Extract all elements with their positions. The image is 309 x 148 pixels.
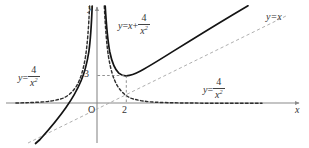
plot-canvas [0, 0, 309, 148]
asymptote-line-y-equals-x [28, 15, 288, 143]
x-axis-label: x [295, 105, 299, 115]
right-hyperbola-exponent: 2 [220, 88, 223, 95]
left-hyperbola-exponent: 2 [35, 76, 38, 83]
main-curve-fraction: 4 x2 [138, 13, 150, 36]
annotation-asymptote: y=x [266, 12, 282, 22]
right-hyperbola-denominator: x2 [213, 89, 225, 101]
axis-group [6, 7, 299, 143]
annotation-main-curve: y = x + 4 x2 [118, 14, 150, 37]
graph-figure: y = x + 4 x2 y = 4 x2 y = 4 x2 [0, 0, 309, 148]
annotation-left-hyperbola: y = 4 x2 [18, 66, 40, 89]
x-tick-label-2: 2 [122, 105, 127, 115]
origin-label: O [88, 105, 95, 115]
left-hyperbola-denominator: x2 [28, 77, 40, 89]
y-tick-label-3: 3 [84, 69, 89, 79]
annotation-right-hyperbola: y = 4 x2 [203, 78, 225, 101]
main-curve-denominator: x2 [138, 25, 150, 37]
y-axis-label: y [88, 3, 92, 13]
right-hyperbola-fraction: 4 x2 [213, 77, 225, 100]
minimum-guide-lines [98, 76, 127, 103]
main-curve-exponent: 2 [145, 24, 148, 31]
left-hyperbola-fraction: 4 x2 [28, 65, 40, 88]
